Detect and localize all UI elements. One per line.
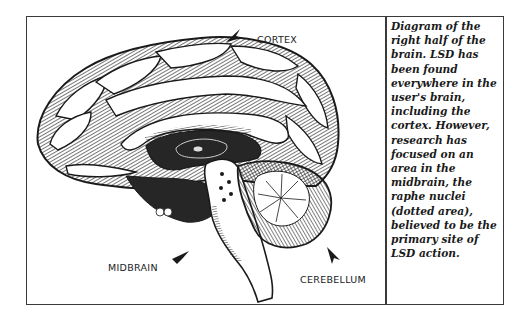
midbrain-label: MIDBRAIN xyxy=(108,262,158,273)
caption-line: LSD action. xyxy=(391,246,505,260)
caption-line: everywhere in the xyxy=(391,76,505,90)
caption-line: including the xyxy=(391,104,505,118)
caption-line: (dotted area), xyxy=(391,204,505,218)
cortex-pointer-icon xyxy=(224,28,244,44)
caption-line: Diagram of the xyxy=(391,19,505,33)
caption-text: Diagram of the right half of the brain. … xyxy=(391,19,505,260)
cortex-label: CORTEX xyxy=(257,34,297,45)
caption-line: user's brain, xyxy=(391,90,505,104)
caption-line: research has xyxy=(391,133,505,147)
cerebellum-label: CEREBELLUM xyxy=(300,274,366,285)
caption-line: been found xyxy=(391,62,505,76)
caption-line: raphe nuclei xyxy=(391,189,505,203)
caption-line: brain. LSD has xyxy=(391,47,505,61)
caption-line: cortex. However, xyxy=(391,118,505,132)
caption-line: midbrain, the xyxy=(391,175,505,189)
caption-line: area in the xyxy=(391,161,505,175)
midbrain-pointer-icon xyxy=(171,249,191,265)
cerebellum-pointer-icon xyxy=(326,246,342,266)
caption-line: primary site of xyxy=(391,232,505,246)
caption-line: believed to be the xyxy=(391,218,505,232)
caption-line: right half of the xyxy=(391,33,505,47)
caption-line: focused on an xyxy=(391,147,505,161)
